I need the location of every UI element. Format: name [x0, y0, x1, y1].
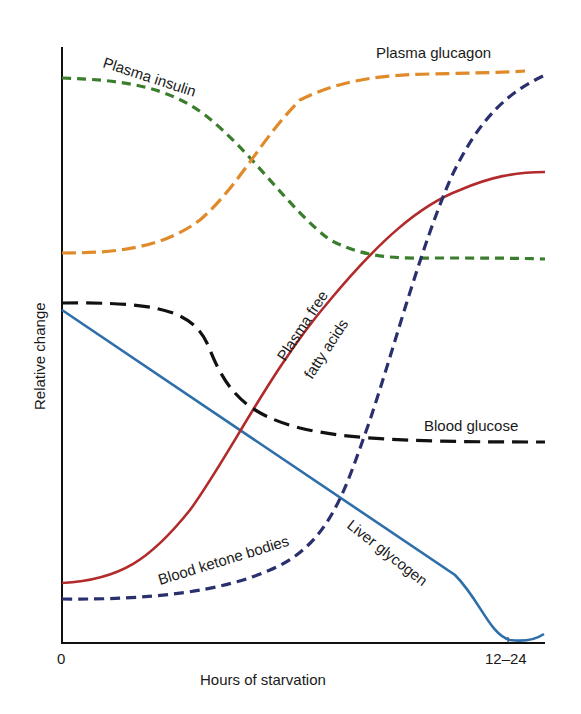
label-plasma-insulin: Plasma insulin	[101, 54, 198, 100]
series-plasma-insulin	[62, 78, 545, 259]
label-blood-glucose: Blood glucose	[424, 417, 518, 434]
label-liver-glycogen: Liver glycogen	[344, 516, 431, 589]
x-tick-label-12-24: 12–24	[485, 650, 527, 667]
series-plasma-ffa	[62, 172, 545, 583]
series-liver-glycogen	[62, 310, 544, 641]
x-tick-label-0: 0	[57, 650, 65, 667]
series-plasma-glucagon	[62, 71, 525, 253]
y-axis-label: Relative change	[31, 302, 48, 410]
label-blood-ketone-bodies: Blood ketone bodies	[156, 532, 291, 588]
label-plasma-glucagon: Plasma glucagon	[376, 44, 491, 61]
x-axis-label: Hours of starvation	[200, 671, 326, 688]
starvation-chart: Plasma insulin Plasma glucagon Plasma fr…	[0, 0, 581, 714]
